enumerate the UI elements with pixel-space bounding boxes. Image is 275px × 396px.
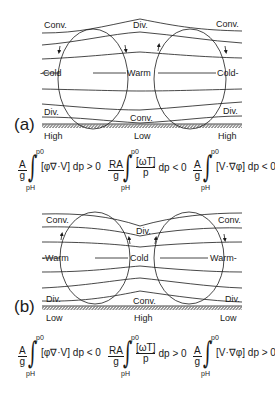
label-conv: Conv.	[46, 215, 69, 225]
eq-integrand-den: p	[143, 354, 149, 364]
integral-sign: ∫	[28, 338, 37, 368]
label-conv: Conv.	[216, 19, 239, 29]
eq-prefix-den: g	[113, 357, 119, 367]
eq-tail: dp > 0	[158, 349, 186, 359]
label-warm: Warm	[127, 68, 151, 78]
eq-lower-limit: pH	[26, 184, 35, 191]
circulation-cell-right	[154, 29, 226, 129]
isobar-line	[42, 266, 242, 272]
eq-lower-limit: pH	[121, 184, 130, 191]
isobar-line	[42, 213, 242, 226]
label-conv: Conv.	[218, 215, 241, 225]
label-warm: -Warm	[42, 253, 69, 263]
isobar-line	[42, 89, 242, 91]
eq-integrand: [φ∇·V] dp < 0	[41, 348, 101, 358]
eq-upper-limit: p0	[131, 148, 139, 155]
isobar-line	[42, 278, 242, 288]
integral-sign: ∫	[123, 152, 132, 182]
label-cold: Cold-	[217, 68, 239, 78]
eq-integrand: [φ∇·V] dp > 0	[41, 162, 101, 172]
eq-upper-limit: p0	[36, 334, 44, 341]
ground-hatch	[42, 307, 242, 311]
equation-a-1: Ag ∫ p0 pH [φ∇·V] dp > 0	[18, 148, 103, 192]
eq-lower-limit: pH	[201, 370, 210, 377]
eq-integrand: [V·∇φ] dp > 0	[216, 348, 275, 358]
label-conv: Conv.	[133, 296, 156, 306]
circulation-cell-left	[58, 29, 128, 129]
isobar-line	[42, 242, 242, 247]
eq-upper-limit: p0	[131, 334, 139, 341]
integral-sign: ∫	[203, 338, 212, 368]
eq-integrand-den: p	[143, 168, 149, 178]
eq-upper-limit: p0	[211, 334, 219, 341]
ground-label-low: Low	[46, 313, 63, 323]
eq-lower-limit: pH	[201, 184, 210, 191]
isobar-line	[42, 52, 242, 59]
equation-b-3: Ag ∫ p0 pH [V·∇φ] dp > 0	[193, 334, 275, 378]
equation-b-1: Ag ∫ p0 pH [φ∇·V] dp < 0	[18, 334, 103, 378]
integral-sign: ∫	[203, 152, 212, 182]
label-div: Div.	[46, 294, 61, 304]
label-cold: Cold	[130, 253, 149, 263]
eq-prefix-den: g	[20, 171, 26, 181]
integral-sign: ∫	[28, 152, 37, 182]
equation-a-2: RAg ∫ p0 pH [ωT]p dp < 0	[108, 148, 188, 192]
label-div: Div.	[133, 20, 148, 30]
panel-label-a: (a)	[14, 115, 35, 134]
ground-label-high: High	[134, 313, 153, 323]
eq-upper-limit: p0	[211, 148, 219, 155]
eq-upper-limit: p0	[36, 148, 44, 155]
label-div: Div.	[44, 107, 59, 117]
ground-label-high: High	[218, 131, 237, 141]
label-div: Div.	[225, 294, 240, 304]
ground-label-low: Low	[134, 131, 151, 141]
label-warm: Warm-	[210, 253, 237, 263]
eq-lower-limit: pH	[26, 370, 35, 377]
equation-a-3: Ag ∫ p0 pH [V·∇φ] dp < 0	[193, 148, 275, 192]
label-div: Div.	[223, 106, 238, 116]
panel-a-labels: Conv. Div. Conv. -Cold Warm Cold- Div. C…	[14, 19, 239, 141]
isobar-line	[42, 102, 242, 110]
ground-hatch	[42, 125, 242, 129]
label-conv: Conv.	[44, 20, 67, 30]
eq-prefix-den: g	[20, 357, 26, 367]
ground-label-high: High	[44, 131, 63, 141]
eq-integrand: [V·∇φ] dp < 0	[216, 162, 275, 172]
panel-label-b: (b)	[14, 297, 35, 316]
label-conv: Conv.	[130, 113, 153, 123]
equation-b-2: RAg ∫ p0 pH [ωT]p dp > 0	[108, 334, 188, 378]
eq-prefix-den: g	[195, 357, 201, 367]
integral-sign: ∫	[123, 338, 132, 368]
eq-lower-limit: pH	[121, 370, 130, 377]
eq-prefix-den: g	[195, 171, 201, 181]
eq-tail: dp < 0	[158, 163, 186, 173]
label-div: Div.	[136, 226, 151, 236]
label-cold: -Cold	[40, 68, 62, 78]
eq-prefix-den: g	[113, 171, 119, 181]
ground-label-low: Low	[220, 313, 237, 323]
